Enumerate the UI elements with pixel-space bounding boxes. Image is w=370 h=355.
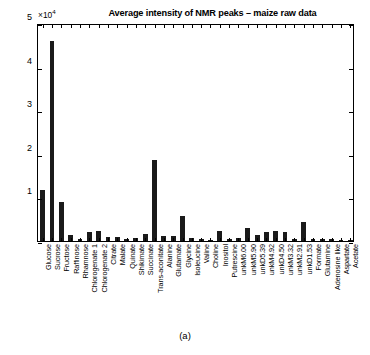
x-axis-tick-top <box>332 25 333 28</box>
x-axis-tick-top <box>210 25 211 28</box>
x-axis-tick-label: Glutamine <box>324 244 332 276</box>
x-axis-tick-top <box>266 25 267 28</box>
x-axis-tick-label: Putrescine <box>231 244 239 277</box>
x-axis-tick-top <box>61 25 62 28</box>
x-axis-tick-top <box>304 25 305 28</box>
x-axis-tick-label: Adenosine like <box>334 244 342 290</box>
x-axis-tick-top <box>173 25 174 28</box>
y-axis-tick-label: 2 <box>8 143 32 153</box>
plot-area <box>37 24 354 242</box>
x-axis-tick-label: unkD1.53 <box>306 244 314 274</box>
x-axis-tick-top <box>285 25 286 28</box>
x-axis-tick-top <box>52 25 53 28</box>
x-axis-tick-label: Raffinose <box>73 244 81 274</box>
x-axis-tick-label: Choline <box>212 244 220 268</box>
y-axis-exponent-label: ×104 <box>38 10 56 20</box>
x-axis-tick-label: Trans-aconitate <box>157 244 165 293</box>
x-axis-tick-top <box>220 25 221 28</box>
x-axis-tick <box>304 238 305 241</box>
y-axis-tick-label: 4 <box>8 56 32 66</box>
x-axis-tick-top <box>136 25 137 28</box>
x-axis-tick-label: unkM6.00 <box>240 244 248 275</box>
x-axis-tick-top <box>80 25 81 28</box>
x-axis-tick <box>43 238 44 241</box>
x-axis-tick-label: Chlorogenate 1 <box>91 244 99 293</box>
x-axis-tick <box>238 238 239 241</box>
x-axis-tick <box>61 238 62 241</box>
x-axis-tick <box>145 238 146 241</box>
x-axis-labels: GlucoseSucroseFructoseRaffinoseRhamnoseC… <box>37 244 354 329</box>
y-axis-tick <box>38 69 42 70</box>
x-axis-tick-top <box>276 25 277 28</box>
x-axis-tick-top <box>350 25 351 28</box>
x-axis-tick-top <box>117 25 118 28</box>
bar <box>59 202 64 241</box>
chart-title: Average intensity of NMR peaks – maize r… <box>70 8 355 18</box>
x-axis-tick <box>192 238 193 241</box>
x-axis-tick-label: Citrate <box>110 244 118 265</box>
y-axis-tick-right <box>349 112 353 113</box>
x-axis-tick <box>248 238 249 241</box>
x-axis-tick <box>294 238 295 241</box>
x-axis-tick-top <box>145 25 146 28</box>
x-axis-tick <box>80 238 81 241</box>
x-axis-tick <box>313 238 314 241</box>
x-axis-tick <box>201 238 202 241</box>
x-axis-tick <box>266 238 267 241</box>
x-axis-tick <box>71 238 72 241</box>
x-axis-tick-top <box>322 25 323 28</box>
x-axis-tick <box>332 238 333 241</box>
x-axis-tick-label: unkM5.90 <box>250 244 258 275</box>
x-axis-tick-top <box>71 25 72 28</box>
bars-layer <box>38 25 353 241</box>
y-axis-tick <box>38 112 42 113</box>
x-axis-tick-top <box>238 25 239 28</box>
x-axis-tick-top <box>248 25 249 28</box>
x-axis-tick <box>183 238 184 241</box>
y-axis-tick-label: 3 <box>8 99 32 109</box>
x-axis-tick <box>99 238 100 241</box>
x-axis-tick-label: Glucose <box>45 244 53 270</box>
x-axis-tick <box>210 238 211 241</box>
x-axis-tick-top <box>127 25 128 28</box>
x-axis-tick <box>173 238 174 241</box>
x-axis-tick-top <box>229 25 230 28</box>
x-axis-tick-label: Glycine <box>185 244 193 268</box>
x-axis-tick <box>276 238 277 241</box>
x-axis-tick-label: unkM3.32 <box>287 244 295 275</box>
x-axis-tick-label: unkM2.91 <box>296 244 304 275</box>
x-axis-tick-label: unkM4.92 <box>268 244 276 275</box>
x-axis-tick-top <box>294 25 295 28</box>
y-axis-tick-right <box>349 156 353 157</box>
x-axis-tick-label: Rhamnose <box>82 244 90 279</box>
nmr-intensity-figure: Average intensity of NMR peaks – maize r… <box>0 0 370 355</box>
x-axis-tick-top <box>89 25 90 28</box>
x-axis-tick-label: Acetate <box>352 244 360 268</box>
x-axis-tick-label: Glutamate <box>175 244 183 277</box>
y-axis-tick <box>38 199 42 200</box>
bar <box>152 160 157 241</box>
y-axis-tick-right <box>349 199 353 200</box>
x-axis-tick <box>285 238 286 241</box>
x-axis-tick <box>89 238 90 241</box>
x-axis-tick <box>350 238 351 241</box>
x-axis-tick-top <box>99 25 100 28</box>
bar <box>50 41 55 241</box>
x-axis-tick-label: Malate <box>119 244 127 265</box>
x-axis-tick-top <box>43 25 44 28</box>
x-axis-tick-top <box>155 25 156 28</box>
x-axis-tick <box>220 238 221 241</box>
x-axis-tick-top <box>341 25 342 28</box>
x-axis-tick-label: Shikimate <box>138 244 146 275</box>
x-axis-tick-label: Formate <box>315 244 323 270</box>
x-axis-tick-label: Sucrose <box>54 244 62 270</box>
x-axis-tick-top <box>192 25 193 28</box>
x-axis-tick-label: Fructose <box>63 244 71 272</box>
figure-caption: (a) <box>0 330 370 341</box>
x-axis-tick-label: Alanine <box>166 244 174 268</box>
x-axis-tick-top <box>108 25 109 28</box>
y-axis-tick <box>38 25 42 26</box>
x-axis-tick-label: Valine <box>203 244 211 263</box>
x-axis-tick <box>127 238 128 241</box>
x-axis-tick <box>341 238 342 241</box>
